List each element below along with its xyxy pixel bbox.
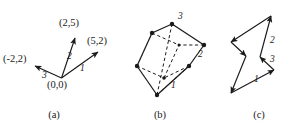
caption-a: (a) <box>0 110 108 121</box>
visible-edge-3 <box>172 24 204 45</box>
chain-segment-1 <box>231 70 274 93</box>
panel-b-edge-1-label: 1 <box>171 81 176 91</box>
tip-label-minus2-2: (-2,2) <box>3 54 27 65</box>
hidden-edge-3 <box>164 45 179 78</box>
panel-b-edge-2-label: 2 <box>198 50 203 60</box>
vertex-dot <box>135 64 139 68</box>
vector-1-index-label: 1 <box>80 64 85 74</box>
panel-c-edge-3-label: 3 <box>270 55 275 65</box>
hidden-edge-7 <box>157 24 172 95</box>
tip-label-5-2: (5,2) <box>87 36 107 47</box>
caption-b: (b) <box>108 110 212 121</box>
visible-edge-6 <box>137 66 157 95</box>
vertex-dot <box>170 22 174 26</box>
vertex-dot <box>202 43 206 47</box>
vector-3-index-label: 3 <box>42 71 47 81</box>
panel-a: (2,5) (5,2) (-2,2) (0,0) 2 1 3 (a) <box>0 0 108 128</box>
hidden-edge-2 <box>164 66 189 78</box>
panel-b: 1 2 3 (b) <box>108 0 212 128</box>
panel-b-edge-3-label: 3 <box>178 12 183 22</box>
vertex-dot <box>187 64 191 68</box>
vertex-dot <box>150 31 154 35</box>
vertex-dot <box>178 44 181 47</box>
vector-2-index-label: 2 <box>67 52 72 62</box>
caption-c: (c) <box>212 110 306 121</box>
panel-c-edge-1-label: 1 <box>254 75 259 85</box>
tip-label-2-5: (2,5) <box>59 18 79 29</box>
chain-segment-5 <box>231 42 246 56</box>
panel-c-edge-2-label: 2 <box>270 36 275 46</box>
visible-edge-1 <box>137 33 152 66</box>
hidden-edge-4 <box>152 33 179 45</box>
vector-3-arrow <box>35 66 62 78</box>
chain-segment-6 <box>231 56 246 93</box>
visible-edge-2 <box>152 24 172 33</box>
origin-label: (0,0) <box>47 80 67 91</box>
panel-c: 1 2 3 (c) <box>212 0 306 128</box>
vertex-dot <box>162 76 166 80</box>
vertex-dot <box>155 93 159 97</box>
vector-figure: (2,5) (5,2) (-2,2) (0,0) 2 1 3 (a) <box>0 0 306 128</box>
